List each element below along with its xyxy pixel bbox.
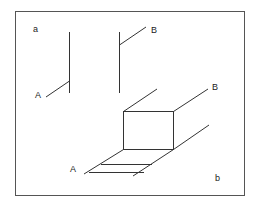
b-floor-right-edge bbox=[174, 125, 210, 150]
diagram-canvas: a A B A B b bbox=[0, 0, 254, 205]
b-point-B-label: B bbox=[212, 82, 218, 92]
b-box-top-right-edge bbox=[174, 89, 209, 112]
panel-a bbox=[46, 27, 146, 97]
a-point-B-label: B bbox=[151, 25, 157, 35]
panel-a-label: a bbox=[33, 24, 38, 34]
panel-b bbox=[84, 89, 209, 176]
b-floor-left-edge bbox=[84, 150, 124, 175]
a-left-branch-line bbox=[46, 81, 70, 97]
b-box-top-left-edge bbox=[124, 89, 158, 112]
a-point-A-label: A bbox=[35, 90, 41, 100]
b-box-front-face bbox=[124, 112, 174, 150]
panel-b-label: b bbox=[215, 173, 220, 183]
b-point-A-label: A bbox=[70, 164, 76, 174]
figure-border bbox=[16, 12, 245, 196]
a-right-branch-line bbox=[120, 27, 147, 45]
